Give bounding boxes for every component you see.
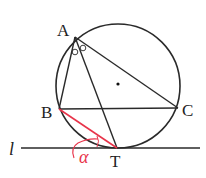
label-alpha: α [79,147,89,167]
angle-mark-1 [72,49,78,55]
label-l: l [9,139,14,159]
segment-AC [75,37,178,108]
label-B: B [41,103,52,122]
center-point [116,82,119,85]
label-T: T [110,152,121,171]
circumcircle [56,24,180,148]
label-C: C [182,101,193,120]
geometry-diagram: A B C T l α [0,0,206,178]
segment-AB [59,37,75,109]
angle-mark-2 [80,45,86,51]
segment-AT [75,37,117,148]
label-A: A [57,21,70,40]
segment-BT [59,109,117,148]
segment-BC [59,108,178,109]
